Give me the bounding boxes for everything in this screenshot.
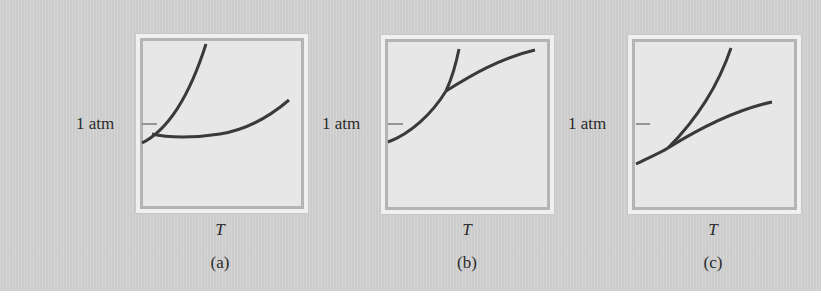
x-axis-label-c: T bbox=[693, 220, 733, 240]
y-tick-label-c: 1 atm bbox=[568, 114, 606, 134]
curve-lower-c bbox=[636, 148, 668, 164]
curve-gentle-branch-c bbox=[668, 102, 772, 148]
curve-steep-branch-c bbox=[668, 48, 731, 148]
caption-c: (c) bbox=[693, 253, 733, 273]
